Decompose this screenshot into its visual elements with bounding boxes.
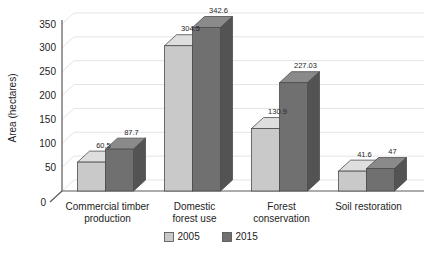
gridline-depth: [62, 13, 74, 24]
gridline-depth: [62, 108, 74, 119]
bar-front-face: [193, 28, 221, 191]
bars: [78, 17, 407, 191]
bar-front-face: [165, 46, 193, 191]
bar-front-face: [339, 171, 367, 191]
bar-value-label: 304.5: [181, 24, 200, 33]
x-category-label: conservation: [253, 213, 310, 224]
y-axis-title: Area (hectares): [7, 74, 18, 143]
legend-label: 2015: [236, 231, 259, 242]
y-tick-label: 100: [39, 138, 56, 149]
y-tick-label: 50: [45, 162, 57, 173]
bar-front-face: [280, 83, 308, 191]
chart-canvas: 050100150200250300350Area (hectares)60.5…: [0, 0, 437, 260]
x-category-label: Domestic: [174, 201, 216, 212]
legend-swatch: [165, 233, 174, 242]
bar-2015: [106, 138, 146, 191]
x-category-label: Commercial timber: [66, 201, 151, 212]
y-tick-label: 0: [40, 197, 46, 208]
bar-2015: [193, 17, 233, 191]
gridline-depth: [62, 156, 74, 167]
category-labels: Commercial timberproductionDomesticfores…: [66, 201, 402, 224]
origin-depth-line: [50, 191, 62, 202]
bar-2015: [280, 72, 320, 191]
y-tick-label: 150: [39, 114, 56, 125]
bar-2015: [367, 158, 407, 191]
bar-value-label: 41.6: [357, 150, 372, 159]
legend-label: 2005: [178, 231, 201, 242]
y-tick-label: 350: [39, 19, 56, 30]
x-category-label: Forest: [267, 201, 296, 212]
x-category-label: Soil restoration: [335, 201, 402, 212]
legend-swatch: [223, 233, 232, 242]
y-tick-label: 250: [39, 66, 56, 77]
bar-side-face: [308, 72, 320, 191]
x-category-label: production: [84, 213, 131, 224]
bar-value-label: 87.7: [124, 128, 139, 137]
y-tick-label: 300: [39, 42, 56, 53]
gridline-depth: [62, 61, 74, 72]
gridline-depth: [62, 85, 74, 96]
legend: 20052015: [165, 231, 259, 242]
bar-value-label: 130.9: [268, 107, 287, 116]
bar-value-label: 47: [388, 147, 396, 156]
value-labels: 60.587.7304.5342.6130.9227.0341.647: [96, 6, 396, 159]
bar-front-face: [252, 129, 280, 191]
gridline-depth: [62, 37, 74, 48]
x-category-label: forest use: [173, 213, 217, 224]
bar-value-label: 60.5: [96, 141, 111, 150]
bar-chart: 050100150200250300350Area (hectares)60.5…: [0, 0, 437, 260]
y-tick-labels: 050100150200250300350: [39, 19, 56, 208]
bar-front-face: [106, 149, 134, 191]
bar-value-label: 227.03: [294, 61, 317, 70]
bar-front-face: [367, 169, 395, 191]
bar-side-face: [221, 17, 233, 191]
bar-front-face: [78, 162, 106, 191]
bar-value-label: 342.6: [209, 6, 228, 15]
gridline-depth: [62, 132, 74, 143]
y-tick-label: 200: [39, 90, 56, 101]
gridline-depth: [62, 180, 74, 191]
